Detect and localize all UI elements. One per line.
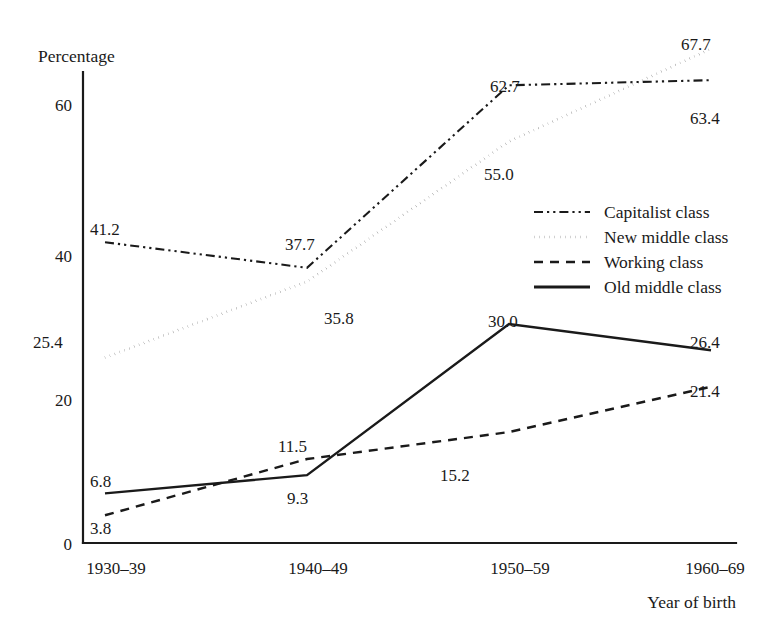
x-tick-label-1950-59: 1950–59 (490, 559, 550, 578)
legend-label-old-middle-class: Old middle class (604, 277, 722, 297)
y-tick-label-40: 40 (55, 247, 72, 266)
series-line-working-class (105, 387, 711, 515)
y-tick-label-20: 20 (55, 391, 72, 410)
value-label-working-1930-39: 3.8 (90, 519, 111, 538)
value-label-old-middle-1930-39: 6.8 (90, 472, 111, 491)
value-label-new-middle-1940-49: 35.8 (324, 309, 354, 328)
chart-canvas: Percentage Year of birth 60 40 20 0 1930… (0, 0, 781, 636)
series-line-old-middle-class (105, 324, 711, 493)
value-label-new-middle-1930-39: 25.4 (33, 333, 63, 352)
value-label-capitalist-1940-49: 37.7 (285, 235, 315, 254)
value-label-new-middle-1960-69: 67.7 (681, 35, 711, 54)
value-label-capitalist-1960-69: 63.4 (690, 109, 720, 128)
y-axis-title: Percentage (38, 46, 115, 66)
x-axis-title: Year of birth (647, 592, 736, 612)
x-tick-label-1930-39: 1930–39 (86, 559, 146, 578)
value-label-capitalist-1950-59: 62.7 (490, 77, 520, 96)
value-label-new-middle-1950-59: 55.0 (484, 165, 514, 184)
value-label-working-1940-49: 11.5 (278, 437, 307, 456)
line-chart-figure: Percentage Year of birth 60 40 20 0 1930… (0, 0, 781, 636)
value-label-working-1960-69: 21.4 (690, 382, 720, 401)
value-label-old-middle-1940-49: 9.3 (287, 489, 308, 508)
legend-label-capitalist-class: Capitalist class (604, 202, 710, 222)
x-tick-label-1960-69: 1960–69 (685, 559, 745, 578)
legend-label-working-class: Working class (604, 252, 703, 272)
legend-label-new-middle-class: New middle class (604, 227, 729, 247)
y-tick-label-0: 0 (64, 535, 73, 554)
value-label-old-middle-1960-69: 26.4 (690, 333, 720, 352)
value-label-working-1950-59: 15.2 (440, 466, 470, 485)
value-label-capitalist-1930-39: 41.2 (90, 220, 120, 239)
value-label-old-middle-1950-59: 30.0 (488, 312, 518, 331)
chart-legend: Capitalist class New middle class Workin… (534, 202, 729, 297)
x-tick-label-1940-49: 1940–49 (288, 559, 348, 578)
y-tick-label-60: 60 (55, 96, 72, 115)
